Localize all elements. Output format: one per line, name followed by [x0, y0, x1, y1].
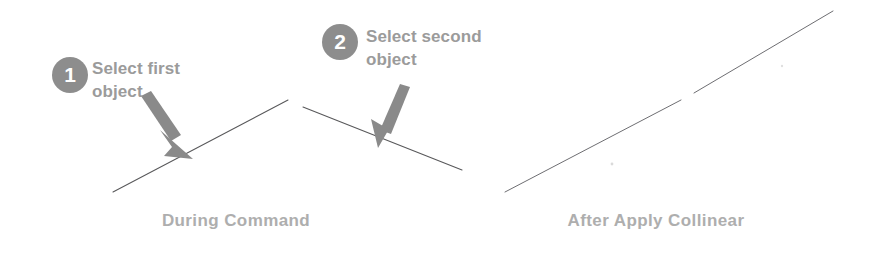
caption-after-apply-collinear: After Apply Collinear [530, 211, 782, 231]
caption-during-command: During Command [120, 211, 352, 231]
panel-after-apply-collinear: After Apply Collinear [480, 0, 878, 256]
step-badge-1: 1 [52, 57, 88, 93]
figure-root: 1 Select first object During Command 2 S… [0, 0, 878, 256]
step-badge-2: 2 [322, 24, 358, 60]
callout-label-select-first-object: Select first object [92, 58, 262, 103]
